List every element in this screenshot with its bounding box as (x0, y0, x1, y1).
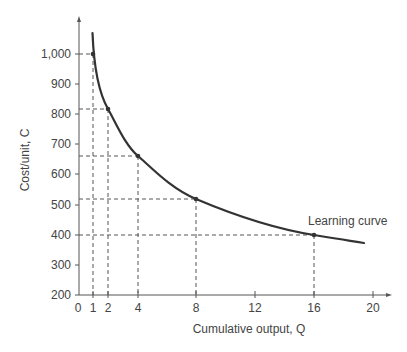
learning-curve-line (93, 33, 365, 243)
y-tick-labels: 1,000 900 800 700 600 500 400 300 200 (41, 47, 71, 302)
svg-text:700: 700 (51, 137, 71, 151)
y-axis-arrow-icon (77, 16, 81, 22)
svg-text:200: 200 (51, 288, 71, 302)
axes (79, 20, 388, 295)
svg-text:1: 1 (90, 301, 97, 315)
svg-text:500: 500 (51, 198, 71, 212)
x-axis-title: Cumulative output, Q (193, 322, 306, 336)
point-q16 (312, 233, 317, 238)
point-q2 (106, 107, 111, 112)
curve-label: Learning curve (308, 214, 388, 228)
point-q4 (136, 154, 141, 159)
svg-text:16: 16 (307, 301, 321, 315)
point-q1 (91, 52, 96, 57)
svg-text:0: 0 (75, 301, 82, 315)
svg-text:600: 600 (51, 167, 71, 181)
svg-text:4: 4 (135, 301, 142, 315)
svg-text:20: 20 (366, 301, 380, 315)
learning-curve-chart: 1,000 900 800 700 600 500 400 300 200 0 … (0, 0, 407, 352)
svg-text:900: 900 (51, 77, 71, 91)
svg-text:300: 300 (51, 258, 71, 272)
x-axis-arrow-icon (386, 293, 392, 297)
svg-text:400: 400 (51, 228, 71, 242)
svg-text:8: 8 (193, 301, 200, 315)
svg-text:12: 12 (248, 301, 262, 315)
svg-text:2: 2 (105, 301, 112, 315)
svg-text:800: 800 (51, 107, 71, 121)
reference-lines (79, 54, 314, 295)
x-tick-labels: 0 1 2 4 8 12 16 20 (75, 301, 380, 315)
y-ticks (75, 54, 79, 295)
point-q8 (194, 197, 199, 202)
svg-text:1,000: 1,000 (41, 47, 71, 61)
data-point-markers (91, 52, 317, 238)
y-axis-title: Cost/unit, C (18, 128, 32, 191)
